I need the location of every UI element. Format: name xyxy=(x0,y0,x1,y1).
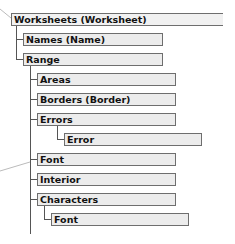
node-error: Error xyxy=(64,133,202,146)
connector-errors-trunk xyxy=(57,126,58,140)
node-range: Range xyxy=(23,53,163,66)
callout-line-worksheets xyxy=(0,9,11,18)
node-borders: Borders (Border) xyxy=(37,93,176,106)
connector-worksheets-trunk xyxy=(16,26,17,60)
connector-error xyxy=(57,139,64,140)
connector-font xyxy=(30,159,37,160)
connector-characters xyxy=(30,199,37,200)
connector-range xyxy=(16,59,23,60)
node-areas: Areas xyxy=(37,73,176,86)
node-font: Font xyxy=(37,153,176,166)
connector-interior xyxy=(30,179,37,180)
connector-characters-trunk xyxy=(44,206,45,220)
node-worksheets: Worksheets (Worksheet) xyxy=(11,13,223,26)
node-characters-font: Font xyxy=(51,213,189,226)
connector-characters-font xyxy=(44,219,51,220)
node-names: Names (Name) xyxy=(23,33,163,46)
connector-borders xyxy=(30,99,37,100)
connector-range-trunk xyxy=(30,66,31,234)
node-characters: Characters xyxy=(37,193,176,206)
connector-areas xyxy=(30,79,37,80)
connector-names xyxy=(16,39,23,40)
node-interior: Interior xyxy=(37,173,176,186)
callout-line-font xyxy=(0,162,30,171)
connector-errors xyxy=(30,119,37,120)
node-errors: Errors xyxy=(37,113,176,126)
